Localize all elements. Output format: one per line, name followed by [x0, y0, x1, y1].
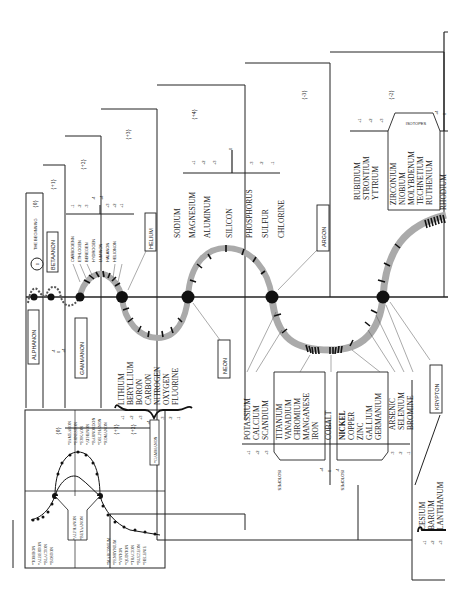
- node-krypton: [377, 291, 390, 304]
- svg-text:ALUMINUM: ALUMINUM: [203, 196, 212, 238]
- node-alphanon: [31, 294, 38, 301]
- svg-text:+3: +3: [138, 415, 143, 420]
- svg-text:MANGANESE: MANGANESE: [302, 392, 311, 440]
- svg-text:ZINC: ZINC: [356, 423, 365, 441]
- svg-text:*BOSTON: *BOSTON: [49, 547, 54, 565]
- svg-text:*MARCONIUM: *MARCONIUM: [106, 537, 111, 565]
- svg-text:*DELPHANON: *DELPHANON: [97, 418, 102, 445]
- node-betaanon: [48, 294, 55, 301]
- svg-text:CARBON: CARBON: [144, 373, 153, 405]
- svg-text:-1: -1: [176, 416, 181, 420]
- svg-text:*ROMANON: *ROMANON: [103, 422, 108, 445]
- svg-text:LITHIUM: LITHIUM: [117, 373, 126, 405]
- svg-text:*TRACION: *TRACION: [130, 545, 135, 565]
- element-wave: [28, 215, 446, 354]
- svg-text:HYDROGEN: HYDROGEN: [91, 239, 96, 262]
- svg-text:-2: -2: [77, 204, 82, 208]
- svg-text:-1: -1: [70, 204, 75, 208]
- svg-text:-1: -1: [406, 451, 411, 455]
- svg-text:NICKEL: NICKEL: [338, 410, 347, 440]
- svg-text:{+1}: {+1}: [113, 424, 120, 435]
- label-gammanon: GAMMANON: [79, 342, 85, 375]
- group-minus3-label: {-3}: [301, 90, 308, 100]
- svg-text:BERYLLIUM: BERYLLIUM: [126, 361, 135, 405]
- svg-text:-2: -2: [168, 416, 173, 420]
- svg-text:+1: +1: [119, 203, 124, 208]
- octave3-labels: LITHIUM BERYLLIUM BORON CARBON NITROGEN …: [117, 361, 180, 405]
- label-alphanon: ALPHANON: [31, 330, 37, 360]
- group-plus2-label: {+2}: [80, 159, 87, 170]
- diagram-canvas: 0 THE BEGINNING {0} BETAANON {+1} {+2} C…: [0, 0, 457, 615]
- svg-text:-3: -3: [390, 451, 395, 455]
- svg-text:TECHNETIUM: TECHNETIUM: [416, 156, 425, 205]
- label-argon: ARGON: [321, 227, 327, 247]
- svg-text:0: 0: [228, 147, 233, 150]
- octave5-isotopes-label-a: ISOTOPES: [277, 470, 282, 491]
- svg-text:*BETAANON: *BETAANON: [79, 516, 84, 540]
- svg-text:MOLYBDENUM: MOLYBDENUM: [407, 151, 416, 205]
- svg-text:-4: -4: [91, 196, 96, 200]
- svg-text:POTASSIUM: POTASSIUM: [243, 398, 252, 440]
- svg-text:*ERNESTON: *ERNESTON: [73, 422, 78, 445]
- inset-diagram: *ALPHANON *BETAANON {0} {+1} {+2} *GAMMA…: [31, 410, 160, 568]
- svg-text:NITROGEN: NITROGEN: [153, 366, 162, 405]
- svg-text:-4: -4: [335, 468, 340, 472]
- svg-text:+3: +3: [379, 118, 384, 123]
- svg-text:+4: +4: [99, 195, 104, 200]
- svg-text:+1: +1: [357, 118, 362, 123]
- svg-text:+2: +2: [201, 160, 206, 165]
- svg-text:MAGNESIUM: MAGNESIUM: [188, 191, 197, 238]
- octave4-valences: +1 +2 +3 0 -3 -2 -1: [191, 147, 275, 165]
- svg-text:STRONTIUM: STRONTIUM: [362, 156, 371, 200]
- svg-text:+3: +3: [212, 160, 217, 165]
- group-plus4-label: {+4}: [191, 109, 198, 120]
- svg-text:CALCIUM: CALCIUM: [252, 405, 261, 440]
- node-neon: [182, 291, 195, 304]
- group-plus3-label: {+3}: [125, 129, 132, 140]
- svg-text:-3: -3: [84, 204, 89, 208]
- svg-text:+2: +2: [129, 415, 134, 420]
- svg-text:+3: +3: [105, 203, 110, 208]
- label-cobalt: COBALT: [324, 410, 333, 440]
- label-krypton: KRYPTON: [434, 384, 440, 410]
- octave7-labels: CESIUM BARIUM LANTHANUM: [418, 481, 445, 530]
- svg-text:*ATHENON: *ATHENON: [85, 424, 90, 445]
- svg-text:*PENRYNIUM: *PENRYNIUM: [112, 539, 117, 565]
- svg-text:-1: -1: [270, 161, 275, 165]
- svg-text:CHLORINE: CHLORINE: [277, 200, 286, 238]
- svg-text:+1: +1: [422, 540, 427, 545]
- svg-text:BEREGEN: BEREGEN: [84, 242, 89, 262]
- svg-text:BROMINE: BROMINE: [406, 395, 415, 430]
- svg-text:*HELENIE: *HELENIE: [142, 546, 147, 565]
- svg-text:SCANDIUM: SCANDIUM: [261, 400, 270, 440]
- svg-text:*BUZZEON: *BUZZEON: [136, 544, 141, 565]
- svg-text:+4: +4: [61, 348, 66, 353]
- node-argon: [266, 291, 279, 304]
- label-rhodium: RHODIUM: [439, 174, 448, 210]
- octave2-valences: -1 -2 -3 -4 +4 +3 +2 +1: [70, 195, 124, 208]
- svg-text:*TOMBON: *TOMBON: [31, 546, 36, 565]
- svg-text:VANADIUM: VANADIUM: [284, 399, 293, 440]
- title-the-beginning: THE BEGINNING: [33, 218, 38, 250]
- svg-text:-2: -2: [259, 161, 264, 165]
- octave2-labels: CARBOGENN ETHLOGEN BEREGEN HYDROGEN LUMI…: [70, 236, 117, 262]
- octave7-valences: +1 +2 +3: [422, 540, 443, 545]
- krypton-connector: [415, 415, 440, 485]
- svg-text:*VINTON: *VINTON: [118, 548, 123, 565]
- svg-text:*ALBERTON: *ALBERTON: [37, 542, 42, 565]
- node-helium: [116, 291, 128, 303]
- svg-text:RUTHENIUM: RUTHENIUM: [425, 160, 434, 205]
- svg-text:PHOSPHORUS: PHOSPHORUS: [245, 189, 254, 238]
- svg-text:ZIRCONIUM: ZIRCONIUM: [389, 162, 398, 205]
- group-0-label: {0}: [32, 200, 39, 208]
- svg-text:+4: +4: [319, 467, 324, 472]
- svg-text:+1: +1: [191, 160, 196, 165]
- svg-text:RUBIDIUM: RUBIDIUM: [353, 162, 362, 200]
- periodic-wave-diagram: 0 THE BEGINNING {0} BETAANON {+1} {+2} C…: [0, 0, 457, 615]
- svg-text:*QUINTON: *QUINTON: [124, 545, 129, 565]
- svg-text:{0}: {0}: [55, 427, 62, 435]
- octave6-isotopes-label: ISOTOPES: [406, 121, 427, 126]
- node-gammanon: [76, 293, 85, 302]
- svg-text:OXYGEN: OXYGEN: [162, 373, 171, 405]
- svg-text:YTTRIUM: YTTRIUM: [371, 166, 380, 200]
